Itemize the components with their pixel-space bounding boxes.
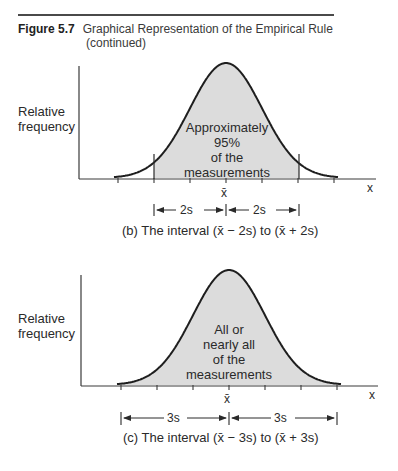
mean-label-c: x̄ bbox=[224, 392, 230, 406]
y-axis-label-c: Relative frequency bbox=[18, 311, 75, 341]
x-axis-label-b: x bbox=[367, 181, 373, 195]
x-axis-label-c: x bbox=[369, 388, 375, 402]
shaded-label-b: Approximately 95% of the measurements bbox=[167, 120, 287, 180]
interval-label-c-left: 3s bbox=[167, 411, 180, 425]
interval-label-b-left: 2s bbox=[180, 203, 193, 217]
shaded-label-c: All or nearly all of the measurements bbox=[169, 322, 289, 382]
mean-label-b: x̄ bbox=[221, 186, 227, 200]
y-axis-label-b: Relative frequency bbox=[18, 104, 75, 134]
caption-b: (b) The interval (x̄ − 2s) to (x̄ + 2s) bbox=[122, 223, 318, 238]
caption-c: (c) The interval (x̄ − 3s) to (x̄ + 3s) bbox=[123, 430, 319, 445]
interval-label-c-right: 3s bbox=[274, 411, 287, 425]
interval-label-b-right: 2s bbox=[253, 203, 266, 217]
